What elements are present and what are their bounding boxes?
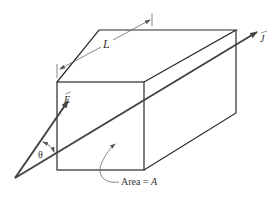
right-face-edges: [144, 30, 236, 170]
current-density-arrow: [15, 32, 257, 178]
length-label: L: [102, 37, 110, 51]
current-density-label: J: [260, 33, 265, 44]
area-pointer: [100, 144, 119, 182]
area-label: Area = A: [121, 176, 158, 187]
conductor-diagram: L E J θ Area = A: [0, 0, 274, 197]
angle-arc: [43, 142, 54, 152]
efield-arrow: [15, 101, 68, 178]
conductor-block: [57, 30, 236, 170]
efield-label: E: [63, 94, 70, 105]
angle-label: θ: [38, 149, 43, 160]
